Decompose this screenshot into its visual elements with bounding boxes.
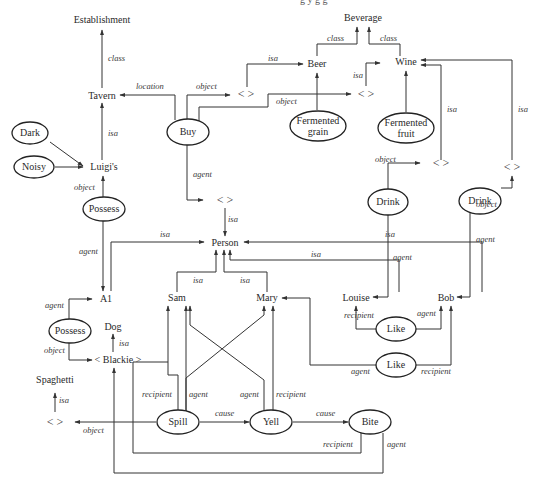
- node-yell: Yell: [263, 416, 279, 427]
- label-isa-spaghetti: isa: [59, 395, 69, 405]
- node-drink-1: Drink: [376, 196, 399, 207]
- label-recipient-like1: recipient: [344, 310, 375, 320]
- label-object-possess: object: [74, 182, 95, 192]
- node-anon-wine: < >: [358, 87, 375, 101]
- label-agent-like1: agent: [417, 308, 437, 318]
- node-dog: Dog: [104, 321, 121, 332]
- node-tavern: Tavern: [88, 90, 116, 101]
- node-buy: Buy: [180, 126, 197, 137]
- label-class-beer: class: [327, 33, 345, 43]
- node-like-1: Like: [387, 323, 406, 334]
- node-possess-1: Possess: [89, 203, 120, 214]
- node-fermented-grain-2: grain: [308, 126, 329, 137]
- label-isa-beer: isa: [268, 53, 278, 63]
- node-beer: Beer: [308, 58, 328, 69]
- node-sam: Sam: [168, 292, 186, 303]
- label-class-wine: class: [380, 33, 398, 43]
- label-location: location: [136, 81, 164, 91]
- label-recipient-bite: recipient: [323, 439, 354, 449]
- node-fermented-fruit-1: Fermented: [385, 117, 428, 128]
- node-spill: Spill: [169, 416, 188, 427]
- node-anon-drink-2: < >: [504, 160, 521, 174]
- node-mary: Mary: [256, 292, 278, 303]
- label-isa-luigis: isa: [108, 128, 118, 138]
- label-recipient-spill: recipient: [142, 389, 173, 399]
- label-object-buy-2: object: [276, 96, 297, 106]
- label-agent-possess2: agent: [45, 300, 65, 310]
- label-agent-buy: agent: [193, 169, 213, 179]
- node-like-2: Like: [387, 359, 406, 370]
- label-agent-spill: agent: [189, 389, 209, 399]
- label-object-spill: object: [83, 425, 104, 435]
- node-person: Person: [211, 237, 238, 248]
- semantic-network-diagram: g y g g: [0, 0, 539, 484]
- node-luigis: Luigi's: [90, 161, 117, 172]
- label-object-drink2: object: [476, 199, 497, 209]
- label-agent-possess: agent: [79, 246, 99, 256]
- label-isa-bob: isa: [385, 229, 395, 239]
- label-isa-sam: isa: [193, 275, 203, 285]
- label-agent-drink2: agent: [476, 234, 496, 244]
- label-cause-yell: cause: [316, 408, 336, 418]
- label-isa-drink1-wine: isa: [447, 104, 457, 114]
- node-bob: Bob: [438, 292, 455, 303]
- label-isa-louise: isa: [311, 249, 321, 259]
- edge-labels: class isa location object object isa cla…: [44, 33, 528, 449]
- node-anon-spaghetti: < >: [47, 415, 64, 429]
- node-louise: Louise: [342, 292, 370, 303]
- label-recipient-like2: recipient: [421, 366, 452, 376]
- label-object-drink1: object: [375, 154, 396, 164]
- label-isa-anon-person: isa: [228, 214, 238, 224]
- label-agent-like2: agent: [351, 366, 371, 376]
- node-anon-beer: < >: [238, 87, 255, 101]
- label-agent-drink1: agent: [393, 252, 413, 262]
- edges: [50, 27, 512, 473]
- node-wine: Wine: [395, 56, 417, 67]
- label-class-tavern: class: [108, 53, 126, 63]
- label-isa-blackie: isa: [119, 338, 129, 348]
- node-fermented-fruit-2: fruit: [397, 128, 414, 139]
- node-dark: Dark: [20, 127, 40, 138]
- label-recipient-yell: recipient: [276, 389, 307, 399]
- label-object-possess2: object: [44, 345, 65, 355]
- label-object-buy-1: object: [196, 81, 217, 91]
- node-a1: A1: [100, 293, 112, 304]
- label-cause-spill: cause: [215, 408, 235, 418]
- label-isa-mary: isa: [240, 275, 250, 285]
- node-beverage: Beverage: [344, 12, 382, 23]
- label-isa-a1: isa: [160, 229, 170, 239]
- node-blackie: < Blackie >: [95, 354, 142, 365]
- node-anon-person: < >: [217, 193, 234, 207]
- label-agent-yell: agent: [240, 389, 260, 399]
- label-isa-wine: isa: [353, 70, 363, 80]
- node-possess-2: Possess: [55, 325, 86, 336]
- node-bite: Bite: [362, 416, 379, 427]
- node-establishment: Establishment: [74, 14, 131, 25]
- label-agent-bite: agent: [387, 439, 407, 449]
- cropped-header-text: g y g g: [300, 0, 328, 5]
- label-isa-drink2-wine: isa: [518, 104, 528, 114]
- node-fermented-grain-1: Fermented: [297, 115, 340, 126]
- node-anon-drink-1: < >: [433, 156, 450, 170]
- node-spaghetti: Spaghetti: [36, 374, 74, 385]
- node-noisy: Noisy: [22, 161, 46, 172]
